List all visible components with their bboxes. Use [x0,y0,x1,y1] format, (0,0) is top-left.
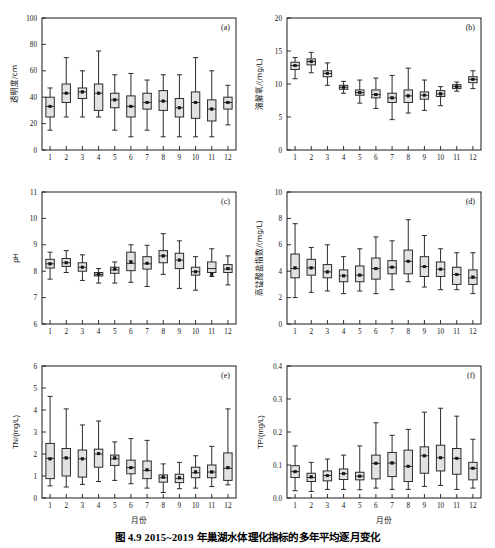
boxplot-6 [372,423,380,488]
boxplot-11 [453,416,461,489]
mean-marker [375,462,378,465]
boxplot-8 [159,75,167,137]
x-tick-label: 11 [453,154,460,162]
boxplot-12 [469,439,477,488]
y-tick-label: 0.2 [273,429,282,437]
y-tick-label: 2 [33,451,37,459]
mean-marker [81,458,84,461]
y-axis-title: 透明度/cm [9,65,19,103]
mean-marker [194,270,197,273]
boxplot-2 [62,409,70,487]
mean-marker [342,275,345,278]
x-axis-title: 月份 [376,515,392,525]
box-iqr [62,449,70,477]
mean-marker [49,105,52,108]
y-tick-label: 0 [33,495,37,503]
mean-marker [326,474,329,477]
mean-marker [65,92,68,95]
mean-marker [326,271,329,274]
y-tick-label: 80 [30,41,38,49]
plot-frame [287,18,481,150]
mean-marker [294,470,297,473]
boxplot-6 [372,237,380,294]
x-tick-label: 1 [48,328,52,336]
y-tick-label: 0.0 [273,495,282,503]
mean-marker [113,268,116,271]
y-axis-title: 高锰酸盐指数/(mg/L) [254,220,264,296]
mean-marker [65,261,68,264]
panel-label: (b) [466,23,476,32]
y-tick-label: 15 [275,48,283,56]
y-tick-label: 0.4 [273,363,282,371]
y-tick-label: 4 [278,268,282,276]
plot-area-d: 0246810123456789101112高锰酸盐指数/(mg/L)(d) [251,182,489,354]
mean-marker [210,273,213,276]
mean-marker [358,475,361,478]
x-tick-label: 1 [293,154,297,162]
boxplot-7 [388,435,396,489]
mean-marker [375,93,378,96]
box-iqr [208,262,216,273]
y-tick-label: 8 [33,268,37,276]
y-tick-label: 5 [33,385,37,393]
mean-marker [178,259,181,262]
y-tick-label: 10 [275,189,283,197]
boxplot-5 [356,446,364,490]
x-tick-label: 4 [97,154,101,162]
mean-marker [342,86,345,89]
x-tick-label: 6 [129,154,133,162]
boxplot-4 [94,269,102,284]
mean-marker [162,476,165,479]
mean-marker [407,95,410,98]
mean-marker [326,72,329,75]
x-tick-label: 8 [406,154,410,162]
mean-marker [391,97,394,100]
panel-label: (f) [467,371,475,380]
boxplot-7 [388,241,396,290]
boxplot-9 [175,462,183,488]
mean-marker [97,273,100,276]
mean-marker [439,268,442,271]
x-tick-label: 11 [453,328,460,336]
box-iqr [191,92,199,118]
y-tick-label: 6 [33,363,37,371]
x-tick-label: 5 [113,154,117,162]
boxplot-1 [291,224,299,298]
boxplot-5 [111,262,119,283]
x-tick-label: 12 [224,154,232,162]
x-tick-label: 5 [358,502,362,510]
plot-area-a: 020406080100123456789101112透明度/cm(a) [6,8,244,180]
y-tick-label: 60 [30,67,38,75]
x-tick-label: 12 [469,328,477,336]
boxplot-7 [143,440,151,488]
plot-area-f: 0.00.10.20.30.4123456789101112月份TP/(mg/L… [251,356,489,528]
mean-marker [146,262,149,265]
x-tick-label: 12 [224,502,232,510]
x-tick-label: 10 [192,502,200,510]
boxplot-4 [94,421,102,482]
x-tick-label: 7 [145,154,149,162]
panel-label: (a) [221,23,230,32]
x-tick-label: 9 [178,154,182,162]
mean-marker [407,465,410,468]
mean-marker [227,101,230,104]
boxplot-8 [404,220,412,282]
boxplot-4 [94,51,102,117]
boxplot-10 [436,408,444,485]
mean-marker [391,462,394,465]
mean-marker [472,276,475,279]
panel-label: (c) [221,197,230,206]
x-tick-label: 7 [390,328,394,336]
x-tick-label: 3 [326,328,330,336]
mean-marker [472,78,475,81]
x-tick-label: 3 [326,502,330,510]
boxplot-9 [420,412,428,486]
boxplot-11 [208,446,216,486]
boxplot-10 [436,249,444,290]
y-tick-label: 0.3 [273,396,282,404]
y-tick-label: 7 [33,294,37,302]
boxplot-7 [388,75,396,119]
boxplot-2 [307,52,315,72]
boxplot-8 [404,68,412,113]
panel-d: 0246810123456789101112高锰酸盐指数/(mg/L)(d) [251,182,489,354]
